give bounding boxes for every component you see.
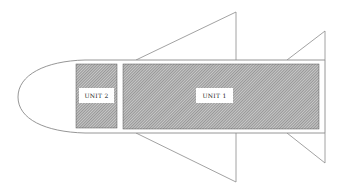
rocket-diagram: UNIT 2 UNIT 1 [0,0,341,192]
unit-2-compartment: UNIT 2 [76,64,117,128]
unit-1-compartment: UNIT 1 [123,64,319,129]
rear-bottom-fin [287,133,325,163]
front-bottom-fin [136,133,236,182]
unit-1-label: UNIT 1 [202,92,226,99]
rear-top-fin [287,31,325,60]
front-top-fin [136,12,236,60]
unit-2-label: UNIT 2 [84,92,108,99]
